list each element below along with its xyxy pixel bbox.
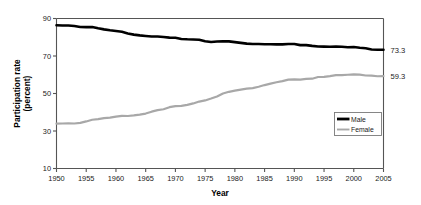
chart-legend: MaleFemale xyxy=(335,113,382,136)
x-tick-label: 1995 xyxy=(316,174,332,183)
y-tick-label: 50 xyxy=(43,89,51,98)
x-tick-label: 1960 xyxy=(108,174,124,183)
y-axis-title-line2: (percent) xyxy=(22,75,32,111)
x-tick-label: 1985 xyxy=(256,174,272,183)
y-tick-label: 30 xyxy=(43,127,51,136)
x-tick-label: 2000 xyxy=(346,174,362,183)
x-tick-label: 1990 xyxy=(286,174,302,183)
y-tick-label: 90 xyxy=(43,14,51,23)
legend-label-male: Male xyxy=(351,116,366,123)
x-axis-title-text: Year xyxy=(211,188,229,198)
x-tick-label: 1965 xyxy=(137,174,153,183)
endpoint-label-female: 59.3 xyxy=(391,72,406,81)
y-axis-title-line1: Participation rate xyxy=(12,59,22,128)
x-tick-label: 1955 xyxy=(78,174,94,183)
x-tick-label: 2005 xyxy=(375,174,391,183)
x-tick-label: 1970 xyxy=(167,174,183,183)
legend-label-female: Female xyxy=(351,126,374,133)
endpoint-label-male: 73.3 xyxy=(391,46,406,55)
x-tick-label: 1950 xyxy=(48,174,64,183)
x-tick-label: 1980 xyxy=(227,174,243,183)
y-tick-label: 70 xyxy=(43,52,51,61)
participation-rate-chart: 1030507090 19501955196019651970197519801… xyxy=(0,0,421,205)
x-tick-label: 1975 xyxy=(197,174,213,183)
y-tick-label: 10 xyxy=(43,164,51,173)
x-axis-title: Year xyxy=(211,188,229,198)
chart-plot-area: 1030507090 19501955196019651970197519801… xyxy=(0,0,421,205)
